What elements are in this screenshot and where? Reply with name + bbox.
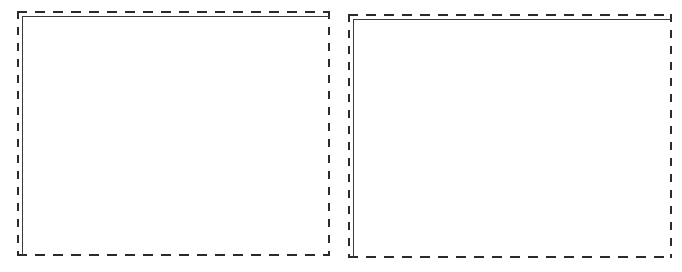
left-frame-body	[18, 12, 329, 255]
left-frame[interactable]	[17, 11, 330, 256]
right-frame[interactable]	[348, 14, 672, 258]
canvas-root	[0, 0, 682, 272]
right-frame-body	[349, 15, 671, 257]
